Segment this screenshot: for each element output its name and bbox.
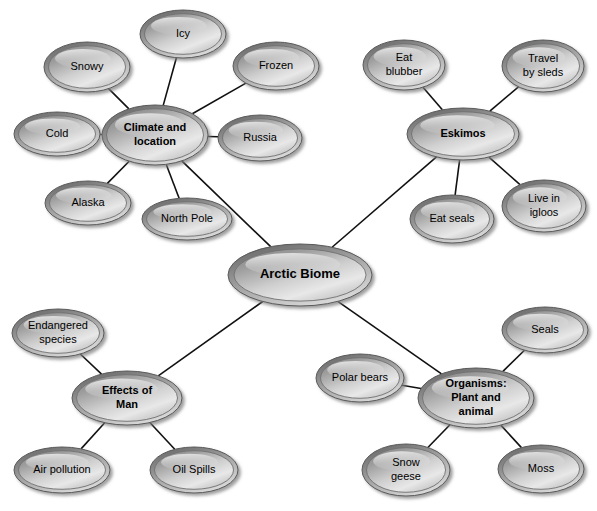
node-label-line: blubber (386, 65, 423, 77)
edge-climate-and-location-to-alaska (107, 161, 129, 183)
node-label-line: igloos (530, 206, 559, 218)
edge-effects-of-man-to-endangered-species (80, 354, 101, 374)
node-label-line: Eat seals (429, 212, 475, 224)
node-label-line: location (134, 135, 176, 147)
node-moss[interactable]: Moss (498, 445, 584, 493)
node-label-line: Climate and (124, 121, 186, 133)
node-label-line: Icy (176, 27, 191, 39)
node-label-line: Snowy (70, 60, 104, 72)
edge-eskimos-to-eat-blubber (423, 87, 442, 110)
node-snowy[interactable]: Snowy (44, 42, 130, 92)
node-label-alaska: Alaska (71, 196, 105, 208)
node-travel-by-sleds[interactable]: Travelby sleds (502, 40, 584, 92)
edge-climate-and-location-to-snowy (109, 89, 129, 109)
node-label-eskimos: Eskimos (440, 127, 485, 139)
node-label-line: Arctic Biome (260, 266, 340, 281)
node-label-line: by sleds (523, 66, 564, 78)
edge-climate-and-location-to-icy (163, 58, 176, 106)
node-label-icy: Icy (176, 27, 191, 39)
node-label-line: Endangered (28, 319, 88, 331)
node-label-line: Travel (528, 52, 558, 64)
node-label-polar-bears: Polar bears (332, 371, 389, 383)
node-cold[interactable]: Cold (14, 112, 100, 156)
node-label-arctic-biome: Arctic Biome (260, 266, 340, 281)
node-label-line: North Pole (161, 212, 213, 224)
mind-map-svg: Arctic BiomeClimate andlocationEskimosEf… (0, 0, 597, 511)
node-label-line: Cold (46, 127, 69, 139)
node-oil-spills[interactable]: Oil Spills (150, 447, 238, 493)
node-label-line: Seals (531, 323, 559, 335)
node-arctic-biome[interactable]: Arctic Biome (228, 244, 372, 306)
node-label-north-pole: North Pole (161, 212, 213, 224)
node-endangered-species[interactable]: Endangeredspecies (12, 309, 104, 357)
node-label-line: Frozen (259, 59, 293, 71)
node-climate-and-location[interactable]: Climate andlocation (102, 105, 208, 165)
node-label-line: Air pollution (33, 463, 90, 475)
edge-eskimos-to-travel-by-sleds (490, 87, 519, 111)
node-label-eat-seals: Eat seals (429, 212, 475, 224)
node-label-line: Russia (243, 131, 278, 143)
edge-effects-of-man-to-air-pollution (81, 423, 105, 449)
node-frozen[interactable]: Frozen (233, 42, 319, 90)
node-icy[interactable]: Icy (140, 10, 226, 58)
node-label-line: Snow (392, 456, 420, 468)
node-label-moss: Moss (528, 462, 555, 474)
node-label-line: animal (459, 405, 494, 417)
edge-eskimos-to-eat-seals (455, 160, 460, 195)
node-air-pollution[interactable]: Air pollution (14, 447, 110, 493)
mind-map-canvas: Arctic BiomeClimate andlocationEskimosEf… (0, 0, 597, 511)
node-label-cold: Cold (46, 127, 69, 139)
edge-organisms-plant-and-animal-to-snow-geese (428, 425, 450, 448)
node-label-line: species (39, 333, 77, 345)
node-organisms-plant-and-animal[interactable]: Organisms:Plant andanimal (418, 368, 534, 428)
node-label-line: Organisms: (445, 377, 506, 389)
node-label-air-pollution: Air pollution (33, 463, 90, 475)
node-eskimos[interactable]: Eskimos (407, 108, 519, 160)
node-effects-of-man[interactable]: Effects ofMan (72, 371, 182, 425)
node-label-line: Plant and (451, 391, 501, 403)
node-label-line: geese (391, 470, 421, 482)
node-label-line: Effects of (102, 384, 152, 396)
node-alaska[interactable]: Alaska (45, 181, 131, 225)
node-label-line: Oil Spills (173, 463, 216, 475)
node-label-line: Polar bears (332, 371, 389, 383)
node-label-frozen: Frozen (259, 59, 293, 71)
edge-eskimos-to-live-in-igloos (489, 157, 520, 185)
node-label-line: Man (116, 398, 138, 410)
node-label-oil-spills: Oil Spills (173, 463, 216, 475)
node-label-line: Alaska (71, 196, 105, 208)
node-north-pole[interactable]: North Pole (142, 198, 232, 240)
edge-arctic-biome-to-effects-of-man (158, 302, 262, 376)
edge-climate-and-location-to-frozen (192, 83, 246, 114)
edge-organisms-plant-and-animal-to-moss (501, 425, 522, 448)
nodes-layer: Arctic BiomeClimate andlocationEskimosEf… (12, 10, 588, 496)
node-snow-geese[interactable]: Snowgeese (362, 444, 450, 496)
node-label-line: Moss (528, 462, 555, 474)
node-label-russia: Russia (243, 131, 278, 143)
node-seals[interactable]: Seals (502, 307, 588, 353)
node-label-snowy: Snowy (70, 60, 104, 72)
node-russia[interactable]: Russia (218, 115, 302, 161)
edge-organisms-plant-and-animal-to-seals (503, 350, 525, 371)
node-eat-seals[interactable]: Eat seals (410, 195, 494, 243)
node-label-line: Eskimos (440, 127, 485, 139)
node-polar-bears[interactable]: Polar bears (316, 354, 404, 402)
edge-effects-of-man-to-oil-spills (150, 423, 175, 450)
node-live-in-igloos[interactable]: Live inigloos (502, 180, 586, 232)
edge-climate-and-location-to-north-pole (166, 164, 179, 198)
node-eat-blubber[interactable]: Eatblubber (363, 40, 445, 90)
edge-organisms-plant-and-animal-to-polar-bears (402, 385, 421, 388)
node-label-seals: Seals (531, 323, 559, 335)
node-label-line: Live in (528, 192, 560, 204)
node-label-line: Eat (396, 51, 413, 63)
